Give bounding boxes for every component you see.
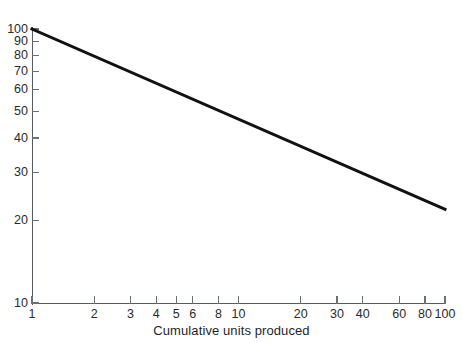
chart-plot-svg: [0, 0, 463, 343]
learning-curve-chart: 100908070605040302010 123456810203040608…: [0, 0, 463, 343]
x-axis-title: Cumulative units produced: [0, 323, 463, 338]
data-series-line: [32, 29, 445, 209]
